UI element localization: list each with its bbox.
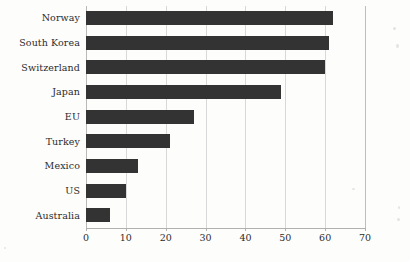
bar-row xyxy=(86,6,365,31)
scan-speck xyxy=(352,188,355,190)
category-label-south-korea: South Korea xyxy=(2,38,80,48)
x-tick-label-20: 20 xyxy=(160,233,172,243)
bar-row xyxy=(86,31,365,56)
scan-speck xyxy=(393,27,396,30)
scan-speck xyxy=(4,247,6,249)
x-tick-mark-0 xyxy=(86,228,87,231)
x-tick-label-30: 30 xyxy=(200,233,212,243)
category-label-switzerland: Switzerland xyxy=(2,63,80,73)
x-tick-mark-60 xyxy=(325,228,326,231)
x-tick-label-10: 10 xyxy=(120,233,132,243)
category-label-us: US xyxy=(2,186,80,196)
bar xyxy=(86,110,194,124)
x-tick-mark-20 xyxy=(166,228,167,231)
x-tick-mark-30 xyxy=(206,228,207,231)
gridline-70 xyxy=(365,6,366,228)
category-label-norway: Norway xyxy=(2,13,80,23)
bar xyxy=(86,134,170,148)
category-label-australia: Australia xyxy=(2,211,80,221)
bar xyxy=(86,208,110,222)
category-axis-labels: NorwaySouth KoreaSwitzerlandJapanEUTurke… xyxy=(0,6,80,228)
bar-row xyxy=(86,80,365,105)
x-axis-tick-labels: 010203040506070 xyxy=(86,233,366,251)
bar-row xyxy=(86,55,365,80)
scan-speck xyxy=(398,206,400,209)
x-tick-label-60: 60 xyxy=(319,233,331,243)
scan-speck xyxy=(396,44,399,48)
x-tick-mark-50 xyxy=(285,228,286,231)
x-axis-line xyxy=(86,228,366,229)
bar-row xyxy=(86,203,365,228)
bar xyxy=(86,184,126,198)
category-label-turkey: Turkey xyxy=(2,137,80,147)
bar xyxy=(86,85,281,99)
bar xyxy=(86,36,329,50)
bar-row xyxy=(86,154,365,179)
bar xyxy=(86,159,138,173)
category-label-eu: EU xyxy=(2,112,80,122)
bar-row xyxy=(86,105,365,130)
x-tick-mark-70 xyxy=(365,228,366,231)
bar-row xyxy=(86,129,365,154)
bar-row xyxy=(86,179,365,204)
scan-speck xyxy=(397,218,400,221)
x-tick-label-40: 40 xyxy=(239,233,251,243)
bar xyxy=(86,11,333,25)
x-tick-label-70: 70 xyxy=(359,233,371,243)
bar xyxy=(86,60,325,74)
bar-chart-figure: NorwaySouth KoreaSwitzerlandJapanEUTurke… xyxy=(0,0,410,262)
x-tick-mark-40 xyxy=(245,228,246,231)
plot-area xyxy=(86,6,365,228)
x-tick-mark-10 xyxy=(126,228,127,231)
category-label-japan: Japan xyxy=(2,87,80,97)
category-label-mexico: Mexico xyxy=(2,161,80,171)
x-tick-label-50: 50 xyxy=(279,233,291,243)
x-tick-label-0: 0 xyxy=(83,233,89,243)
